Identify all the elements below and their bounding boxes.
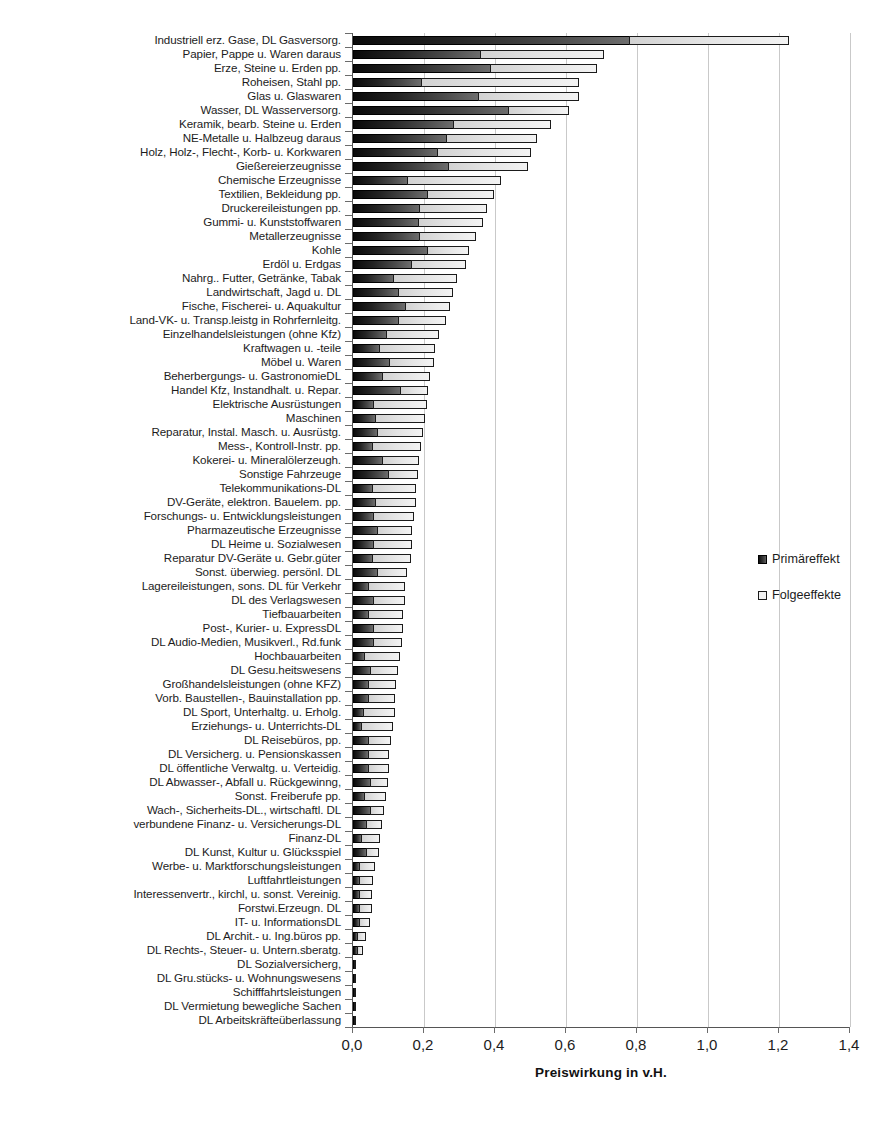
bar-segment-primaereffekt [353,344,380,353]
stacked-bar [353,218,483,227]
y-axis-tick [345,117,352,118]
bar-segment-folgeeffekte [480,50,604,59]
y-axis-tick [345,677,352,678]
y-axis-label: Holz, Holz-, Flecht-, Korb- u. Korkwaren [0,146,341,158]
plot-area [352,33,850,1027]
stacked-bar [353,848,379,857]
stacked-bar [353,498,416,507]
stacked-bar [353,428,423,437]
bar-rows [353,33,850,1027]
bar-segment-primaereffekt [353,764,369,773]
y-axis-label: Wasser, DL Wasserversorg. [0,104,341,116]
price-effect-bar-chart: Industriell erz. Gase, DL Gasversorg.Pap… [0,0,891,1122]
bar-segment-folgeeffekte [411,260,466,269]
bar-segment-primaereffekt [353,554,373,563]
bar-segment-primaereffekt [353,568,378,577]
y-axis-label: Druckereileistungen pp. [0,202,341,214]
bar-segment-primaereffekt [353,400,374,409]
y-axis-tick [345,971,352,972]
bar-segment-folgeeffekte [629,36,789,45]
y-axis-label: Reparatur DV-Geräte u. Gebr.güter [0,552,341,564]
bar-segment-primaereffekt [353,274,394,283]
y-axis-label: Luftfahrtleistungen [0,874,341,886]
bar-segment-primaereffekt [353,806,371,815]
stacked-bar [353,722,393,731]
stacked-bar [353,946,363,955]
y-axis-tick [345,663,352,664]
y-axis-tick [345,467,352,468]
stacked-bar [353,176,501,185]
y-axis-tick [345,691,352,692]
y-axis-label: DL des Verlagswesen [0,594,341,606]
y-axis-label: DL Heime u. Sozialwesen [0,538,341,550]
bar-segment-folgeeffekte [373,638,401,647]
bar-segment-folgeeffekte [448,162,528,171]
y-axis-tick [345,957,352,958]
y-axis-label: DL Sport, Unterhaltg. u. Erholg. [0,706,341,718]
stacked-bar [353,484,416,493]
y-axis-label: verbundene Finanz- u. Versicherungs-DL [0,818,341,830]
bar-segment-folgeeffekte [359,890,371,899]
y-axis-tick [345,761,352,762]
stacked-bar [353,134,537,143]
y-axis-tick [345,943,352,944]
bar-segment-folgeeffekte [377,428,423,437]
stacked-bar [353,120,551,129]
bar-segment-folgeeffekte [359,918,370,927]
y-axis-tick [345,747,352,748]
y-axis-label: Forstwi.Erzeugn. DL [0,902,341,914]
y-axis-tick [345,47,352,48]
bar-segment-folgeeffekte [388,470,418,479]
y-axis-tick [345,649,352,650]
y-axis-tick [345,383,352,384]
y-axis-tick [345,103,352,104]
y-axis-tick [345,397,352,398]
y-axis-label: DL Versicherg. u. Pensionskassen [0,748,341,760]
y-axis-tick [345,495,352,496]
y-axis-label: Erdöl u. Erdgas [0,258,341,270]
bar-segment-folgeeffekte [421,78,579,87]
stacked-bar [353,1002,356,1011]
stacked-bar [353,666,398,675]
y-axis-tick [345,173,352,174]
bar-segment-folgeeffekte [405,302,449,311]
y-axis-tick [345,859,352,860]
bar-segment-primaereffekt [353,736,369,745]
bar-segment-folgeeffekte [370,778,388,787]
bar-segment-primaereffekt [353,498,376,507]
stacked-bar [353,876,373,885]
bar-segment-primaereffekt [353,540,374,549]
y-axis-label: Reparatur, Instal. Masch. u. Ausrüstg. [0,426,341,438]
bar-segment-folgeeffekte [354,960,356,969]
y-axis-tick [345,411,352,412]
stacked-bar [353,764,389,773]
y-axis-tick [345,579,352,580]
y-axis-tick [345,201,352,202]
bar-segment-folgeeffekte [400,386,428,395]
y-axis-tick [345,145,352,146]
y-axis-tick [345,285,352,286]
y-axis-label: Vorb. Baustellen-, Bauinstallation pp. [0,692,341,704]
bar-segment-folgeeffekte [407,176,501,185]
bar-segment-primaereffekt [353,694,369,703]
y-axis-label: DL öffentliche Verwaltg. u. Verteidig. [0,762,341,774]
x-axis-tick-label: 0,8 [626,1036,647,1053]
y-axis-tick [345,621,352,622]
y-axis-tick [345,33,352,34]
y-axis-tick [345,915,352,916]
bar-segment-folgeeffekte [508,106,568,115]
y-axis-tick [345,271,352,272]
y-axis-tick [345,523,352,524]
y-axis-label: Nahrg.. Futter, Getränke, Tabak [0,272,341,284]
x-axis-tick-label: 0,0 [342,1036,363,1053]
y-axis-tick [345,61,352,62]
y-axis-tick [345,327,352,328]
y-axis-label: Sonst. überwieg. persönl. DL [0,566,341,578]
bar-segment-primaereffekt [353,36,630,45]
stacked-bar [353,540,412,549]
stacked-bar [353,36,789,45]
bar-segment-primaereffekt [353,848,367,857]
stacked-bar [353,988,356,997]
bar-segment-folgeeffekte [398,316,446,325]
bar-segment-folgeeffekte [490,64,597,73]
